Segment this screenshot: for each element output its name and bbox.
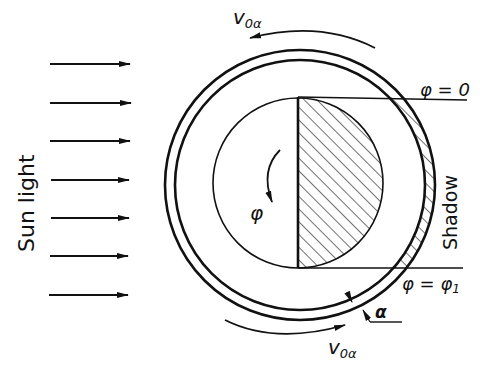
diagram-canvas: Sun light v0α v0α φ φ = 0 φ = φ1 Shadow … <box>0 0 480 370</box>
phi-one-label: φ = φ1 <box>402 273 460 296</box>
shadow-label: Shadow <box>439 175 461 250</box>
velocity-bottom-label: v0α <box>328 335 357 361</box>
velocity-arrow-top-icon <box>250 31 375 48</box>
body-shadow-half <box>298 97 384 268</box>
phi-zero-label: φ = 0 <box>420 79 470 100</box>
velocity-arrow-bottom-icon <box>225 320 345 334</box>
rotation-arrow-icon <box>268 150 281 202</box>
phi-rotation-label: φ <box>250 201 263 225</box>
velocity-top-label: v0α <box>233 5 262 31</box>
alpha-label: α <box>375 302 387 322</box>
sun-light-label: Sun light <box>14 154 39 252</box>
sunlight-arrows <box>49 64 131 295</box>
